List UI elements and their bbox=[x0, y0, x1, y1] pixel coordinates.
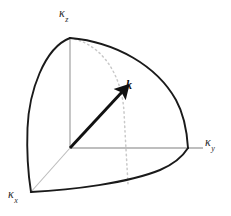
octant-diagram-canvas bbox=[0, 0, 231, 216]
octant-arc-xy bbox=[31, 148, 188, 192]
axis-lines-group bbox=[30, 38, 203, 193]
kappa-z-subscript: z bbox=[65, 15, 68, 24]
octant-arc-zx bbox=[27, 38, 70, 192]
kappa-z-symbol: κ bbox=[59, 6, 65, 20]
kappa-x-axis-label: κx bbox=[8, 188, 17, 203]
kappa-y-symbol: κ bbox=[205, 135, 211, 149]
kappa-x-symbol: κ bbox=[8, 187, 14, 201]
kappa-x-subscript: x bbox=[14, 196, 18, 205]
kappa-x-axis-line bbox=[30, 148, 70, 193]
dotted-meridian-arc bbox=[70, 38, 128, 184]
figure-container: κz κy κx k bbox=[0, 0, 231, 216]
kappa-z-axis-label: κz bbox=[59, 7, 68, 22]
wave-vector-k-arrow bbox=[70, 92, 122, 148]
octant-arc-zy bbox=[70, 38, 188, 148]
kappa-y-subscript: y bbox=[211, 144, 215, 153]
wave-vector-k-label: k bbox=[126, 79, 132, 91]
kappa-y-axis-label: κy bbox=[205, 136, 214, 151]
